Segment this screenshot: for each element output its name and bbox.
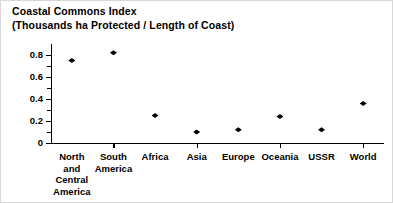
chart-figure: Coastal Commons Index (Thousands ha Prot… [0,0,393,203]
y-tick-label-text: 0.6 [15,72,43,82]
data-point [360,101,367,106]
y-tick-label: 0.4 [13,94,43,104]
y-tick-label-text: 0.4 [15,94,43,104]
y-axis-line [51,44,52,144]
y-tick-label: 0.8 [13,50,43,60]
y-tick-label: 0.2 [13,116,43,126]
y-tick-minor [47,66,52,67]
y-tick-minor [47,132,52,133]
x-category-label-line: America [83,163,143,175]
y-tick-label-text: 0 [15,138,43,148]
y-tick-label-text: 0.8 [15,50,43,60]
data-point [68,58,75,63]
plot-area: 00.20.40.60.8 NorthandCentralAmericaSout… [1,1,393,203]
data-point [110,50,117,55]
y-tick-minor [47,110,52,111]
x-category-label-line: America [42,186,102,198]
data-point [193,130,200,135]
data-point [152,113,159,118]
y-tick-label: 0 [13,138,43,148]
data-point [276,114,283,119]
x-category-label-line: Central [42,174,102,186]
y-tick-label: 0.6 [13,72,43,82]
y-tick-minor [47,88,52,89]
y-tick-major [46,55,52,56]
x-category-label: World [333,151,393,163]
x-category-label-line: World [333,151,393,163]
x-tick [197,143,198,148]
y-tick-major [46,77,52,78]
x-tick [113,143,114,148]
data-point [318,127,325,132]
data-point [235,127,242,132]
y-tick-major [46,143,52,144]
x-tick [280,143,281,148]
x-tick [363,143,364,148]
y-tick-label-text: 0.2 [15,116,43,126]
y-tick-major [46,99,52,100]
y-tick-major [46,121,52,122]
x-axis-line [51,143,384,144]
